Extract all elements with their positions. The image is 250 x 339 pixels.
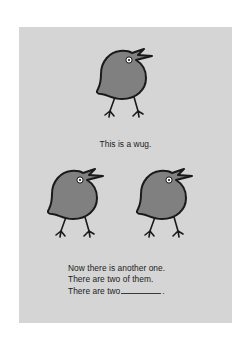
wug-body [137, 169, 192, 219]
wug-legs [56, 217, 94, 237]
wug-icon [136, 167, 196, 249]
caption-plural-line-1: Now there is another one. [68, 263, 165, 274]
wug-body [48, 169, 103, 219]
wug-figure-bottom-left [47, 167, 107, 253]
wug-pupil [168, 179, 170, 181]
wug-figure-top [96, 47, 156, 133]
caption-plural-line-2: There are two of them. [68, 274, 165, 285]
caption-plural: Now there is another one. There are two … [68, 263, 165, 298]
wug-legs [105, 97, 143, 117]
caption-plural-line-3-prefix: There are two [68, 286, 120, 296]
answer-blank[interactable] [121, 285, 161, 294]
wug-figure-bottom-right [136, 167, 196, 253]
caption-plural-line-3-suffix: . [162, 286, 164, 296]
wug-legs [145, 217, 183, 237]
illustration-card: This is a wug. Now there is another one.… [19, 27, 232, 323]
wug-icon [96, 47, 156, 129]
caption-plural-line-3: There are two. [68, 285, 165, 297]
wug-test-page: This is a wug. Now there is another one.… [0, 0, 250, 339]
wug-pupil [79, 179, 81, 181]
wug-pupil [128, 59, 130, 61]
caption-singular-text: This is a wug. [19, 139, 232, 150]
caption-singular: This is a wug. [19, 139, 232, 150]
wug-body [97, 49, 152, 99]
wug-icon [47, 167, 107, 249]
